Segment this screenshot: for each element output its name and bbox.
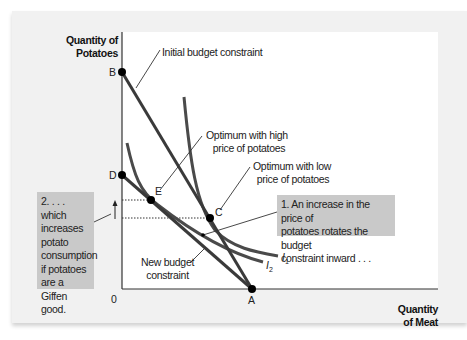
point-b [118, 68, 126, 76]
point-label-e: E [155, 185, 162, 197]
callout-step1: 1. An increase in the price of potatoes … [277, 195, 395, 236]
point-label-a: A [248, 294, 255, 306]
origin-label: 0 [111, 293, 117, 305]
leader-initial-budget [136, 50, 160, 88]
leader-optimum-low [220, 167, 250, 210]
initial-budget-label: Initial budget constraint [162, 46, 262, 59]
point-e [147, 196, 155, 204]
point-label-c: C [215, 206, 223, 218]
optimum-low-label: Optimum with low price of potatoes [253, 160, 331, 186]
point-a [248, 285, 256, 293]
point-label-b: B [109, 66, 116, 78]
indifference-curve-i2 [127, 143, 263, 262]
arrow-up-icon [113, 200, 118, 206]
point-c [206, 214, 214, 222]
y-axis-title: Quantity of Potatoes [62, 34, 118, 60]
point-label-d: D [109, 169, 117, 181]
leader-step1-dot [201, 233, 205, 237]
point-d [118, 171, 126, 179]
new-budget-label: New budget constraint [141, 256, 194, 282]
leader-step2 [94, 214, 111, 222]
curve-label-i2: I2 [266, 259, 273, 273]
callout-step2: 2. . . . which increases potato consumpt… [37, 192, 94, 289]
optimum-high-label: Optimum with high price of potatoes [206, 129, 288, 155]
x-axis-title: Quantity of Meat [392, 303, 438, 329]
